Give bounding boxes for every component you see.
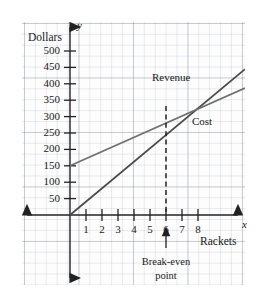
- x-tick-label: 3: [111, 224, 125, 235]
- series-line-cost: [70, 88, 245, 166]
- y-tick-label: 100: [26, 176, 60, 187]
- y-tick-label: 350: [26, 94, 60, 105]
- break-even-label-line1: Break-even: [106, 256, 226, 268]
- y-tick-label: 50: [26, 193, 60, 204]
- x-axis-title: Rackets: [200, 236, 236, 248]
- x-axis-symbol: x: [242, 219, 247, 230]
- y-tick-label: 300: [26, 111, 60, 122]
- y-tick-label: 400: [26, 78, 60, 89]
- y-tick-label: 150: [26, 160, 60, 171]
- break-even-label-line2: point: [106, 270, 226, 282]
- x-tick-label: 4: [127, 224, 141, 235]
- chart-figure: 500 450 400 350 300 250 200 150 100 50 1…: [0, 0, 261, 306]
- y-tick-label: 250: [26, 127, 60, 138]
- y-axis-title: Dollars: [28, 32, 62, 44]
- series-label-cost: Cost: [192, 116, 212, 127]
- x-tick-label: 7: [175, 224, 189, 235]
- series-label-revenue: Revenue: [152, 72, 190, 83]
- x-tick-label: 8: [191, 224, 205, 235]
- y-tick-label: 200: [26, 143, 60, 154]
- series-line-revenue: [70, 69, 245, 215]
- x-tick-label: 2: [95, 224, 109, 235]
- y-tick-label: 450: [26, 61, 60, 72]
- y-tick-label: 500: [26, 45, 60, 56]
- x-tick-label: 1: [79, 224, 93, 235]
- x-tick-label: 5: [143, 224, 157, 235]
- y-axis-symbol: y: [77, 20, 82, 31]
- x-tick-label: 6: [159, 224, 173, 235]
